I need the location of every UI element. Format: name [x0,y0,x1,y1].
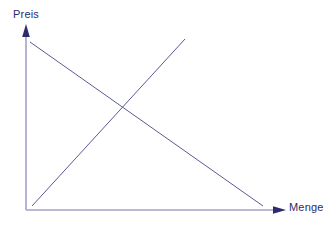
x-axis-label: Menge [289,201,324,214]
demand-curve [30,42,263,206]
y-axis-arrow-icon [22,24,30,37]
chart-canvas [0,0,335,225]
supply-curve [32,39,185,206]
supply-demand-chart: Preis Menge [0,0,335,225]
y-axis-label: Preis [13,8,39,21]
x-axis-arrow-icon [273,206,286,213]
